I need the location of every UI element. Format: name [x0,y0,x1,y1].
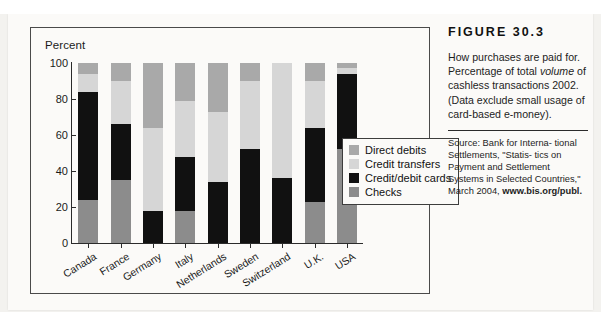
x-axis-tick-mark [121,244,122,248]
legend-item: Credit/debit cards [349,171,451,185]
bar-segment [111,81,131,124]
x-axis-tick-mark [250,244,251,248]
figure-box: Percent 020406080100 CanadaFranceGermany… [30,27,430,294]
y-axis-tick-label: 60 [31,129,68,141]
x-axis-tick-mark [347,244,348,248]
bar-segment [305,81,325,128]
y-axis-tick-label: 20 [31,201,68,213]
bar-segment [78,63,98,74]
bar-segment [305,128,325,202]
bar-segment [272,63,292,178]
x-axis-tick-label: Canada [61,250,99,280]
legend-label: Credit/debit cards [365,172,451,184]
caption-line-1: How purchases are paid [448,51,562,63]
legend-swatch-icon [349,145,359,155]
x-axis-tick-mark [282,244,283,248]
bar-italy [175,63,195,243]
bar-segment [111,63,131,81]
bar-segment [143,211,163,243]
x-axis-tick-mark [185,244,186,248]
bar-netherlands [208,63,228,243]
legend-item: Credit transfers [349,157,451,171]
bar-sweden [240,63,260,243]
chart-legend: Direct debitsCredit transfersCredit/debi… [342,138,459,205]
x-axis-tick-label: U.K. [301,250,325,271]
legend-swatch-icon [349,173,359,183]
figure-source: Source: Bank for Interna- tional Settlem… [448,137,588,197]
bar-segment [175,211,195,243]
bar-segment [240,81,260,149]
bar-segment [143,63,163,128]
legend-swatch-icon [349,187,359,197]
y-axis-tick-label: 40 [31,165,68,177]
bar-segment [240,63,260,81]
bar-uk [305,63,325,243]
bar-segment [272,178,292,243]
legend-label: Credit transfers [365,158,440,170]
bar-segment [337,68,357,73]
legend-item: Checks [349,185,451,199]
bar-segment [175,157,195,211]
x-axis-tick-label: USA [333,250,358,272]
bar-segment [143,128,163,211]
legend-item: Direct debits [349,143,451,157]
caption-italic-volume: volume [540,65,574,77]
y-axis-title: Percent [45,39,85,51]
bar-segment [208,182,228,243]
bar-segment [337,63,357,68]
figure-caption: How purchases are paid for. Percentage o… [448,50,588,121]
y-axis-tick-label: 80 [31,93,68,105]
bar-segment [175,101,195,157]
x-axis-tick-mark [218,244,219,248]
plot-area [71,63,362,243]
bar-segment [305,63,325,81]
bar-segment [175,63,195,101]
source-divider [448,130,588,131]
caption-column: FIGURE 30.3 How purchases are paid for. … [448,25,588,197]
x-axis-tick-mark [315,244,316,248]
legend-swatch-icon [349,159,359,169]
bar-germany [143,63,163,243]
figure-number: FIGURE 30.3 [448,25,588,39]
bar-switzerland [272,63,292,243]
caption-line-6: card-based e-money). [448,108,552,120]
y-axis-tick-label: 100 [31,57,68,69]
scanned-page-background: Percent 020406080100 CanadaFranceGermany… [0,0,601,322]
page-edge-top [0,0,601,14]
bar-canada [78,63,98,243]
bar-segment [78,200,98,243]
bar-segment [78,92,98,200]
legend-label: Direct debits [365,144,426,156]
bar-segment [208,112,228,182]
y-axis-tick-label: 0 [31,237,68,249]
legend-label: Checks [365,186,402,198]
x-axis-tick-mark [153,244,154,248]
bar-segment [208,63,228,112]
bar-segment [78,74,98,92]
x-axis-tick-mark [88,244,89,248]
caption-line-5: exclude small usage of [477,94,585,106]
bar-segment [111,180,131,243]
y-axis-tick-mark [72,243,76,244]
bar-segment [111,124,131,180]
bar-france [111,63,131,243]
source-line-6: 2004, [476,186,502,196]
page-edge-bottom [0,312,601,322]
bar-segment [305,202,325,243]
source-line-1: Source: Bank for Interna- [448,138,552,148]
bar-segment [240,149,260,243]
source-url: www.bis.org/publ. [502,186,582,196]
